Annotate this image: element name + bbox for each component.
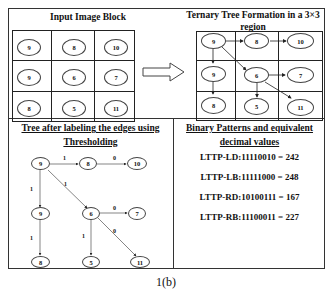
patterns-title-line2: decimal values — [174, 136, 325, 148]
pattern-lttp-rd: LTTP-RD:10100111 = 167 — [174, 192, 325, 202]
tree-node-n10: 10 — [127, 157, 147, 170]
edge-label-n9-n8b: 1 — [30, 235, 33, 241]
pattern-lttp-lb: LTTP-LB:11111000 = 248 — [174, 172, 325, 182]
tree-node-n8b: 8 — [31, 256, 50, 268]
edge-label-n8-n10: 0 — [113, 155, 116, 161]
tree-node-n11: 11 — [130, 256, 150, 268]
tree-node-n9: 9 — [31, 207, 50, 220]
edge-label-root-n8: 1 — [63, 155, 66, 161]
edge-label-n6-n7: 0 — [113, 205, 116, 211]
edge-label-root-n9: 1 — [30, 186, 33, 192]
tree-node-n6: 6 — [82, 207, 100, 220]
tree-node-n5: 5 — [82, 256, 100, 268]
edge-label-root-n6: 1 — [64, 181, 67, 187]
pattern-lttp-ld: LTTP-LD:11110010 = 242 — [174, 152, 325, 162]
tree-node-root: 9 — [31, 157, 50, 170]
patterns-title-line1: Binary Patterns and equivalent — [174, 122, 325, 134]
tree-node-n7: 7 — [128, 207, 146, 220]
tree-node-n8: 8 — [79, 157, 97, 170]
edge-label-n6-n5: 1 — [82, 233, 85, 239]
tree-edges — [0, 0, 332, 296]
edge-label-n6-n11: 0 — [113, 228, 116, 234]
figure-caption: 1(b) — [0, 275, 332, 290]
pattern-lttp-rb: LTTP-RB:11100011 = 227 — [174, 212, 325, 222]
